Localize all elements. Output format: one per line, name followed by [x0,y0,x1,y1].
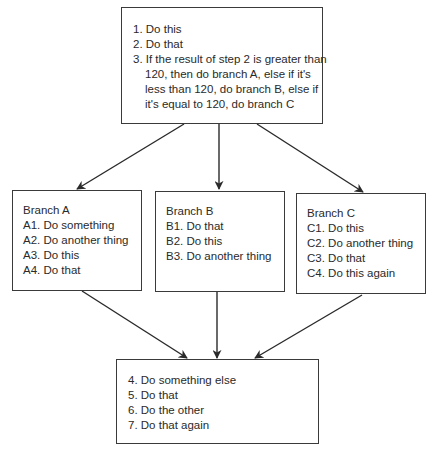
branch-a-step-4: A4. Do that [23,263,129,278]
branch-b-step-3: B3. Do another thing [166,249,272,264]
branch-b-step-1: B1. Do that [166,219,272,234]
end-step-7: 7. Do that again [128,418,236,433]
end-step-4: 4. Do something else [128,373,236,388]
start-step-3-cont-3: it's equal to 120, do branch C [133,97,327,112]
end-box: 4. Do something else 5. Do that 6. Do th… [116,359,319,444]
arrow-a-to-end [82,291,187,358]
end-step-6: 6. Do the other [128,403,236,418]
branch-c-title: Branch C [307,206,413,221]
branch-a-step-3: A3. Do this [23,248,129,263]
start-step-1: 1. Do this [133,22,327,37]
start-step-3: 3. If the result of step 2 is greater th… [133,52,327,67]
arrow-start-to-c [257,124,363,192]
branch-b-title: Branch B [166,204,272,219]
branch-c-box: Branch C C1. Do this C2. Do another thin… [296,193,426,294]
branch-b-step-2: B2. Do this [166,234,272,249]
start-box: 1. Do this 2. Do that 3. If the result o… [121,7,323,124]
branch-a-title: Branch A [23,203,129,218]
branch-c-step-1: C1. Do this [307,221,413,236]
branch-a-step-2: A2. Do another thing [23,233,129,248]
arrow-c-to-end [255,295,362,358]
branch-c-step-3: C3. Do that [307,251,413,266]
start-step-3-cont-1: 120, then do branch A, else if it's [133,67,327,82]
arrow-start-to-a [77,124,184,189]
branch-a-step-1: A1. Do something [23,218,129,233]
end-step-5: 5. Do that [128,388,236,403]
branch-b-box: Branch B B1. Do that B2. Do this B3. Do … [155,191,285,292]
branch-a-box: Branch A A1. Do something A2. Do another… [12,190,142,291]
start-step-2: 2. Do that [133,37,327,52]
start-step-3-cont-2: less than 120, do branch B, else if [133,82,327,97]
branch-c-step-4: C4. Do this again [307,266,413,281]
branch-c-step-2: C2. Do another thing [307,236,413,251]
